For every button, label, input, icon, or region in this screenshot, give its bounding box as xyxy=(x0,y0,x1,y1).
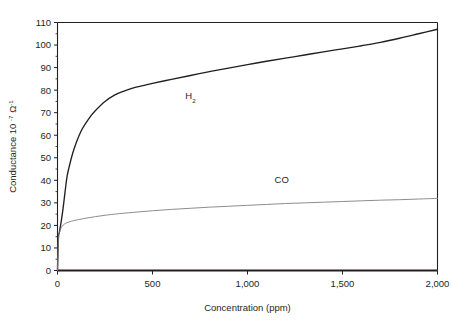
y-axis-title-unit: Ω xyxy=(7,106,18,116)
y-tick-label: 50 xyxy=(40,152,51,163)
conductance-vs-concentration-chart: 0102030405060708090100110 05001,0001,500… xyxy=(0,0,466,329)
y-tick-label: 80 xyxy=(40,85,51,96)
y-tick-label: 0 xyxy=(46,265,51,276)
series-label-subscript: 2 xyxy=(192,97,196,104)
x-tick-label: 0 xyxy=(55,278,60,289)
y-tick-label: 40 xyxy=(40,175,51,186)
y-tick-label: 20 xyxy=(40,220,51,231)
y-tick-label: 110 xyxy=(36,17,51,28)
series-label-co: CO xyxy=(275,174,289,185)
y-axis-title: Conductance 10 -7 Ω-1 xyxy=(6,100,18,193)
x-axis-title: Concentration (ppm) xyxy=(204,302,291,313)
y-axis-title-unit-exponent: -1 xyxy=(6,100,13,106)
y-tick-label: 60 xyxy=(40,130,51,141)
y-tick-label: 70 xyxy=(40,107,51,118)
x-tick-label: 2,000 xyxy=(426,278,450,289)
chart-figure: 0102030405060708090100110 05001,0001,500… xyxy=(0,0,466,329)
y-tick-label: 100 xyxy=(35,39,51,50)
x-tick-label: 500 xyxy=(145,278,161,289)
x-tick-label: 1,500 xyxy=(331,278,355,289)
y-tick-label: 90 xyxy=(40,62,51,73)
y-tick-label: 30 xyxy=(40,197,51,208)
x-tick-label: 1,000 xyxy=(236,278,260,289)
y-tick-label: 10 xyxy=(40,242,51,253)
